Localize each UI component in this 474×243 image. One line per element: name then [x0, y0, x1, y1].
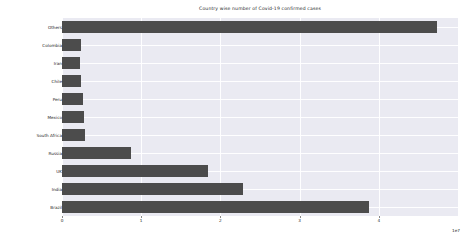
y-axis-tick-label: South Africa	[37, 133, 62, 138]
x-axis-tick-mark	[141, 216, 142, 218]
chart-figure: Country wise number of Covid-19 confirme…	[0, 0, 474, 243]
y-axis-tick-label: Colombia	[42, 43, 62, 48]
chart-title: Country wise number of Covid-19 confirme…	[62, 6, 458, 11]
x-axis-tick-mark	[300, 216, 301, 218]
y-axis-tick-label: Mexico	[47, 115, 62, 120]
x-axis-tick-label: 2	[219, 218, 222, 223]
y-axis-tick-label: UK	[56, 169, 62, 174]
y-axis-tick-label: Peru	[53, 97, 62, 102]
y-axis-tick-labels: OthersColombiaIranChilePeruMexicoSouth A…	[0, 18, 474, 216]
x-axis-tick-label: 3	[298, 218, 301, 223]
y-axis-tick-label: Iran	[54, 61, 62, 66]
y-axis-tick-label: Brazil	[50, 205, 62, 210]
y-axis-tick-label: India	[52, 187, 62, 192]
y-axis-tick-label: Chile	[52, 79, 62, 84]
x-axis-tick-mark	[379, 216, 380, 218]
x-axis-tick-mark	[220, 216, 221, 218]
x-axis-tick-label: 1	[140, 218, 143, 223]
y-axis-tick-label: Russia	[49, 151, 62, 156]
x-axis-tick-label: 4	[377, 218, 380, 223]
x-axis-exponent-label: 1e7	[452, 228, 460, 233]
x-axis-tick-label: 0	[61, 218, 64, 223]
x-axis-tick-labels: 01234	[62, 218, 458, 230]
x-axis-tick-mark	[62, 216, 63, 218]
y-axis-tick-label: Others	[48, 25, 62, 30]
